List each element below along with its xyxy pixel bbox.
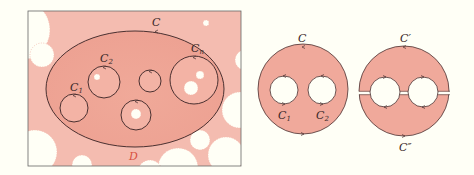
hole-C2 [308, 76, 336, 104]
label-D: D [128, 150, 138, 163]
hole-C1 [270, 76, 298, 104]
domain-region [0, 0, 258, 175]
hole [94, 74, 100, 80]
hole-2 [408, 77, 438, 107]
label-C: C [298, 32, 307, 45]
hole-1 [370, 77, 400, 107]
hole [196, 71, 204, 79]
figure-canvas: C C1 C2 Cn D C C1 C2 [0, 0, 474, 175]
hole [184, 81, 198, 95]
curve-C2 [88, 66, 120, 98]
left-panel: C C1 C2 Cn D [0, 0, 258, 175]
curve-C3 [139, 70, 161, 92]
curve-C1 [60, 94, 88, 122]
label-C: C [152, 16, 161, 29]
right-panel: C′ C″ [358, 32, 450, 154]
label-C-prime: C′ [400, 32, 411, 45]
curve-Cn [170, 56, 218, 104]
label-C-double-prime: C″ [399, 141, 412, 154]
hole [131, 109, 141, 119]
middle-panel: C C1 C2 [258, 32, 348, 136]
